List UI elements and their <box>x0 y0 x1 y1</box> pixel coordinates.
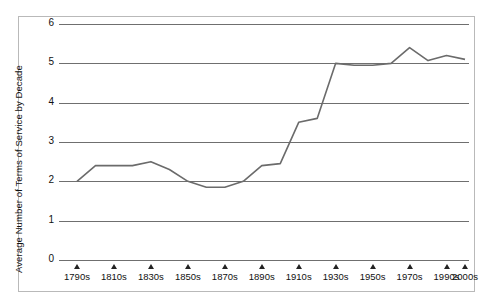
y-tick-label-1: 1 <box>34 214 54 225</box>
triangle-marker-icon <box>74 264 80 269</box>
y-tick-label-5: 5 <box>34 56 54 67</box>
y-tick-label-0: 0 <box>34 253 54 264</box>
y-axis-title: Average Number of Terms of Service by De… <box>13 0 27 43</box>
plot-area: 0123456 <box>59 24 469 260</box>
triangle-marker-icon <box>222 264 228 269</box>
triangle-marker-icon <box>259 264 265 269</box>
triangle-marker-icon <box>370 264 376 269</box>
triangle-marker-icon <box>444 264 450 269</box>
x-tick-label: 2000s <box>441 271 489 282</box>
y-axis-title-text: Average Number of Terms of Service by De… <box>13 65 24 273</box>
triangle-marker-icon <box>333 264 339 269</box>
x-axis <box>59 260 469 261</box>
y-tick-label-3: 3 <box>34 135 54 146</box>
data-line <box>77 48 465 188</box>
y-tick-label-4: 4 <box>34 96 54 107</box>
triangle-marker-icon <box>148 264 154 269</box>
y-tick-label-6: 6 <box>34 17 54 28</box>
chart-figure: Average Number of Terms of Service by De… <box>18 16 475 292</box>
y-tick-label-2: 2 <box>34 174 54 185</box>
triangle-marker-icon <box>462 264 468 269</box>
line-series <box>59 24 469 260</box>
triangle-marker-icon <box>407 264 413 269</box>
triangle-marker-icon <box>111 264 117 269</box>
triangle-marker-icon <box>296 264 302 269</box>
triangle-marker-icon <box>185 264 191 269</box>
